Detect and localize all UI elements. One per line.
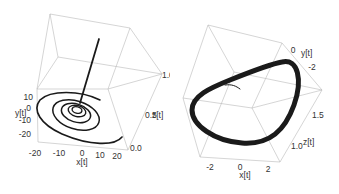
x-tick: -10 (53, 148, 66, 158)
z-axis-label: z[t] (152, 110, 163, 120)
y-tick: -2 (308, 62, 316, 72)
x-tick: -2 (206, 162, 214, 172)
x-tick: 20 (112, 151, 122, 161)
y-tick: 0 (291, 45, 296, 55)
y-tick: 0 (26, 103, 31, 113)
trajectory (37, 39, 122, 143)
x-tick: 10 (95, 150, 105, 160)
y-axis: 10 0 -10 -20 y[t] (15, 92, 33, 139)
z-axis-label: z[t] (303, 137, 314, 147)
y-tick: -20 (19, 129, 32, 139)
y-tick: 10 (24, 92, 34, 102)
plot-right-canvas: -2 0 2 x[t] 0 -2 y[t] 1.5 1.0 z[t] (170, 0, 339, 194)
x-tick: -20 (29, 148, 42, 158)
x-axis-label: x[t] (239, 170, 250, 180)
x-axis-label: x[t] (76, 157, 87, 167)
trajectory (192, 62, 298, 144)
plot-3d-spiral[interactable]: -20 -10 0 10 20 x[t] 10 0 -10 -20 y[t] 0… (0, 0, 170, 194)
x-axis: -2 0 2 x[t] (206, 162, 270, 180)
x-axis: -20 -10 0 10 20 x[t] (29, 148, 122, 167)
z-axis: 0.0 0.5 1.0 z[t] (130, 70, 170, 153)
z-tick: 0.0 (130, 143, 142, 153)
y-axis-label: y[t] (15, 108, 26, 118)
x-tick: 2 (266, 164, 271, 174)
z-tick: 1.0 (291, 141, 303, 151)
z-tick: 1.5 (312, 110, 324, 120)
y-axis-label: y[t] (301, 48, 312, 58)
z-tick: 1.0 (162, 70, 170, 80)
z-axis: 1.5 1.0 z[t] (291, 110, 324, 151)
bounding-box (37, 14, 162, 150)
plot-3d-limit-cycle[interactable]: -2 0 2 x[t] 0 -2 y[t] 1.5 1.0 z[t] (170, 0, 339, 194)
plot-left-canvas: -20 -10 0 10 20 x[t] 10 0 -10 -20 y[t] 0… (0, 0, 170, 194)
